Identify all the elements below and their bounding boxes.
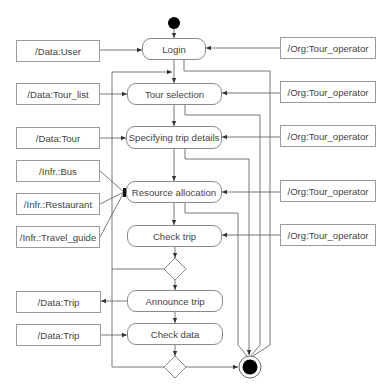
activity-login: Login	[142, 38, 206, 60]
activity-label: Tour selection	[145, 89, 204, 100]
object-label: /Data:Tour_list	[27, 89, 88, 100]
object-org-tour-operator-5: /Org:Tour_operator	[280, 224, 376, 246]
object-infr-restaurant: /Infr.:Restaurant	[16, 193, 100, 215]
object-org-tour-operator-3: /Org:Tour_operator	[280, 125, 376, 147]
object-label: /Org:Tour_operator	[287, 230, 368, 241]
activity-specifying-trip-details: Specifying trip details	[126, 126, 222, 149]
object-infr-travel-guide: /Infr.:Travel_guide	[16, 226, 100, 248]
object-label: /Data:Tour	[36, 133, 80, 144]
object-org-tour-operator-1: /Org:Tour_operator	[280, 37, 376, 59]
activity-check-data: Check data	[127, 323, 223, 345]
object-data-tour-list: /Data:Tour_list	[16, 83, 100, 105]
object-label: /Data:Trip	[38, 297, 80, 308]
object-org-tour-operator-2: /Org:Tour_operator	[280, 81, 376, 103]
object-data-tour: /Data:Tour	[16, 127, 100, 149]
object-infr-bus: /Infr.:Bus	[16, 160, 100, 182]
object-label: /Infr.:Bus	[39, 166, 77, 177]
activity-label: Check trip	[153, 231, 196, 242]
object-data-trip-in: /Data:Trip	[16, 324, 101, 346]
activity-label: Resource allocation	[132, 187, 216, 198]
activity-announce-trip: Announce trip	[127, 290, 223, 312]
activity-resource-allocation: Resource allocation	[126, 181, 222, 203]
object-data-trip-out: /Data:Trip	[16, 291, 101, 313]
object-label: /Org:Tour_operator	[287, 87, 368, 98]
object-label: /Org:Tour_operator	[287, 131, 368, 142]
decision-node-1	[164, 258, 186, 280]
object-label: /Org:Tour_operator	[287, 186, 368, 197]
activity-label: Check data	[151, 329, 200, 340]
activity-check-trip: Check trip	[127, 225, 222, 247]
activity-label: Announce trip	[145, 296, 204, 307]
initial-node-icon	[168, 17, 180, 29]
object-label: /Data:Trip	[38, 330, 80, 341]
activity-tour-selection: Tour selection	[127, 83, 222, 105]
object-label: /Data:User	[35, 46, 81, 57]
object-label: /Org:Tour_operator	[287, 43, 368, 54]
object-org-tour-operator-4: /Org:Tour_operator	[280, 180, 376, 202]
decision-node-2	[164, 356, 186, 378]
activity-label: Specifying trip details	[129, 132, 220, 143]
object-label: /Infr.:Restaurant	[24, 199, 92, 210]
object-data-user: /Data:User	[16, 40, 100, 62]
activity-label: Login	[162, 44, 185, 55]
final-node-icon	[239, 356, 261, 378]
object-label: /Infr.:Travel_guide	[20, 232, 96, 243]
